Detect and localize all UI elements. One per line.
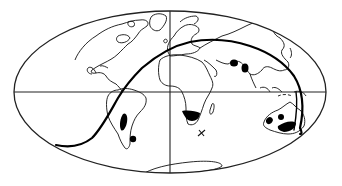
region-central-australia: [278, 114, 284, 120]
track-end: [300, 128, 302, 134]
region-central-asia-1: [230, 60, 238, 67]
region-south-america-dot: [130, 136, 136, 142]
world-map-figure: [0, 0, 342, 186]
region-central-asia-2: [242, 64, 249, 73]
map-canvas: [0, 0, 342, 186]
